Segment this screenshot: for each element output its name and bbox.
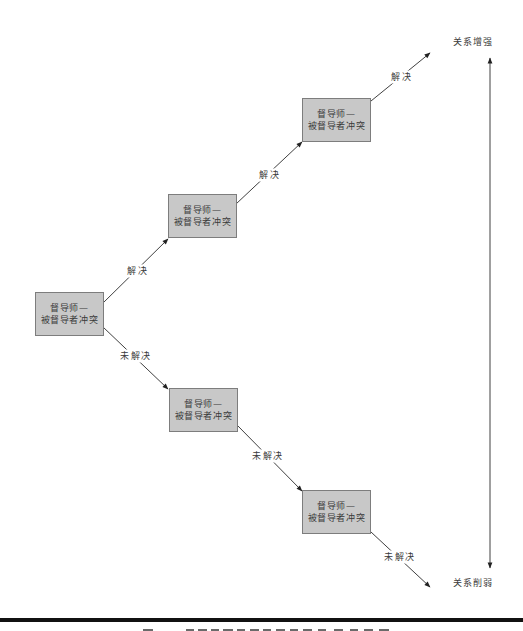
edge-label-unresolved-3: 未解决 [382,551,418,564]
node-line1: 督导师— [184,398,222,410]
outcome-label-strengthened: 关系增强 [451,36,496,49]
node-line1: 督导师— [317,108,355,120]
conflict-node-5: 督导师— 被督导者冲突 [302,490,371,534]
edge-label-resolved-1: 解决 [125,265,150,278]
edge-label-unresolved-1: 未解决 [118,350,154,363]
node-line2: 被督导者冲突 [308,512,366,524]
node-line2: 被督导者冲突 [175,410,233,422]
node-line2: 被督导者冲突 [308,120,366,132]
edge-label-unresolved-2: 未解决 [250,450,286,463]
node-line1: 督导师— [183,204,221,216]
conflict-node-1: 督导师— 被督导者冲突 [35,292,104,336]
conflict-node-2: 督导师— 被督导者冲突 [168,194,237,238]
figure-canvas: 督导师— 被督导者冲突 督导师— 被督导者冲突 督导师— 被督导者冲突 督导师—… [0,0,523,631]
edge-label-resolved-2: 解决 [257,169,282,182]
node-line1: 督导师— [50,302,88,314]
node-line2: 被督导者冲突 [174,216,232,228]
outcome-label-weakened: 关系削弱 [451,577,496,590]
figure-caption-clipped [0,627,523,631]
node-line1: 督导师— [317,500,355,512]
edge-label-resolved-3: 解决 [389,71,414,84]
node-line2: 被督导者冲突 [41,314,99,326]
conflict-node-3: 督导师— 被督导者冲突 [302,98,371,142]
conflict-node-4: 督导师— 被督导者冲突 [169,388,238,432]
page-rule [0,618,523,622]
